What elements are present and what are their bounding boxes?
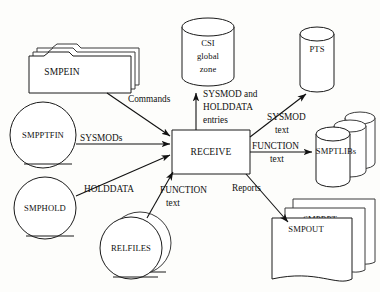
edge-label-csi-line-3: entries — [203, 115, 228, 125]
edge-label-tlibs-line-2: text — [270, 154, 284, 164]
smpptfin-label: SMPPTFIN — [22, 130, 65, 140]
csi-label-line-1: CSI — [201, 38, 215, 48]
node-receive[interactable]: RECEIVE — [172, 130, 250, 174]
pts-cylinder-body — [300, 34, 334, 92]
smpout-label: SMPOUT — [288, 224, 324, 234]
node-smpptfin[interactable]: SMPPTFIN — [10, 102, 76, 168]
edge-label-tlibs-line-1: FUNCTION — [252, 141, 299, 151]
node-report-documents[interactable]: SMPRPT SMPOUT — [272, 199, 375, 281]
edge-label-holddata: HOLDDATA — [84, 184, 134, 194]
edge-label-pts-line-2: text — [275, 125, 289, 135]
edge-label-commands: Commands — [128, 94, 171, 104]
node-relfiles[interactable]: RELFILES — [100, 212, 171, 279]
node-smpein[interactable]: SMPEIN — [29, 44, 139, 93]
csi-cylinder-top — [182, 18, 234, 36]
edge-label-sysmods: SYSMODs — [80, 133, 123, 143]
edge-label-reports: Reports — [232, 183, 261, 193]
smptlibs-cylinder-top-1 — [316, 127, 350, 141]
csi-label-line-2: global — [197, 51, 220, 61]
pts-cylinder-top — [300, 27, 334, 41]
edge-receive-to-reports — [246, 174, 288, 222]
node-pts[interactable]: PTS — [300, 27, 334, 92]
edge-label-function-in-line-1: FUNCTION — [160, 185, 207, 195]
edge-label-csi-line-1: SYSMOD and — [203, 89, 258, 99]
diagram-canvas-root: SMPEIN SMPPTFIN SMPHOLD RELFILES RECEIVE — [0, 0, 380, 292]
node-csi-global-zone[interactable]: CSI global zone — [182, 18, 234, 86]
smpe-receive-flow-diagram: SMPEIN SMPPTFIN SMPHOLD RELFILES RECEIVE — [0, 0, 380, 292]
node-smptlibs[interactable]: SMPTLIBs — [316, 112, 375, 187]
smpein-label: SMPEIN — [44, 67, 79, 77]
smptlibs-cylinder-body-1 — [316, 134, 350, 187]
edge-label-function-in-line-2: text — [166, 198, 180, 208]
edge-label-pts-line-1: SYSMOD — [267, 112, 306, 122]
node-smphold[interactable]: SMPHOLD — [14, 177, 76, 239]
edge-label-csi-line-2: HOLDDATA — [203, 102, 253, 112]
smptlibs-label: SMPTLIBs — [316, 146, 357, 156]
relfiles-label: RELFILES — [111, 243, 151, 253]
receive-label: RECEIVE — [191, 147, 232, 157]
pts-label: PTS — [309, 44, 324, 54]
csi-label-line-3: zone — [200, 64, 217, 74]
smphold-label: SMPHOLD — [24, 203, 66, 213]
